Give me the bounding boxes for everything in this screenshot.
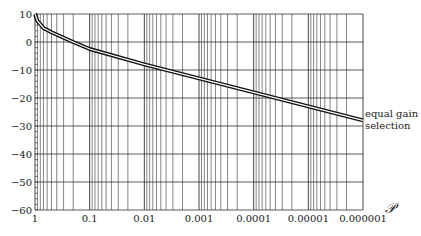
y-tick-label: −20 <box>11 93 32 104</box>
x-tick-label: 0.01 <box>133 213 155 224</box>
x-axis-ticks: 10.10.010.0010.00010.000010.000001 <box>32 213 387 224</box>
y-tick-label: 10 <box>19 9 32 20</box>
grid <box>35 14 363 210</box>
y-tick-label: −30 <box>11 121 32 132</box>
x-tick-label: 0.1 <box>82 213 98 224</box>
y-tick-label: −50 <box>11 177 32 188</box>
annotation-line1: equal gain <box>365 108 419 119</box>
y-tick-label: 0 <box>26 37 32 48</box>
chart: 100−10−20−30−40−50−60 10.10.010.0010.000… <box>0 0 421 236</box>
y-tick-label: −60 <box>11 205 32 216</box>
x-axis-label: 𝒫 <box>385 200 399 216</box>
x-tick-label: 0.00001 <box>288 213 329 224</box>
y-tick-label: −10 <box>11 65 32 76</box>
annotation-line2: selection <box>365 120 411 131</box>
y-tick-label: −40 <box>11 149 32 160</box>
x-tick-label: 0.000001 <box>339 213 387 224</box>
y-axis-ticks: 100−10−20−30−40−50−60 <box>11 9 32 216</box>
x-tick-label: 0.001 <box>185 213 214 224</box>
x-tick-label: 0.0001 <box>236 213 271 224</box>
x-tick-label: 1 <box>32 213 38 224</box>
